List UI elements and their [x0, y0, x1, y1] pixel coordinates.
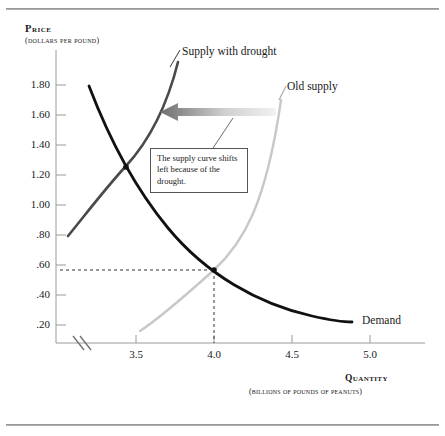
x-tick-label-4-5: 4.5: [272, 348, 312, 360]
y-tick-label-1-60: 1.60: [14, 108, 50, 120]
x-axis-ticks: [136, 335, 370, 343]
curve-label-old-supply: Old supply: [287, 80, 338, 92]
curve-label-demand: Demand: [362, 314, 401, 326]
y-tick-label-1-80: 1.80: [14, 78, 50, 90]
curve-demand: [89, 86, 352, 322]
annotation-callout-box: The supply curve shifts left because of …: [150, 148, 248, 193]
y-tick-label-1-00: 1.00: [14, 198, 50, 210]
y-tick-label-1-40: 1.40: [14, 138, 50, 150]
y-tick-label-0-80: .80: [14, 228, 50, 240]
y-tick-label-0-60: .60: [14, 258, 50, 270]
plot-area: [0, 0, 445, 436]
y-tick-label-0-40: .40: [14, 288, 50, 300]
equilibrium-point-marker: [211, 267, 217, 273]
y-tick-label-0-20: .20: [14, 318, 50, 330]
drought-equilibrium-point-marker: [123, 164, 129, 170]
supply-demand-figure: Price (dollars per pound) Quantity (bill…: [0, 0, 445, 436]
x-tick-label-3-5: 3.5: [116, 348, 156, 360]
curve-label-supply-with-drought: Supply with drought: [182, 45, 277, 57]
y-tick-label-1-20: 1.20: [14, 168, 50, 180]
y-axis-ticks: [56, 85, 66, 325]
curve-old-supply: [140, 100, 281, 331]
annotation-leader-line: [213, 118, 233, 148]
supply-shift-arrow: [160, 103, 276, 121]
old-supply-label-leader: [279, 86, 286, 100]
x-tick-label-5-0: 5.0: [350, 348, 390, 360]
x-tick-label-4-0: 4.0: [194, 348, 234, 360]
